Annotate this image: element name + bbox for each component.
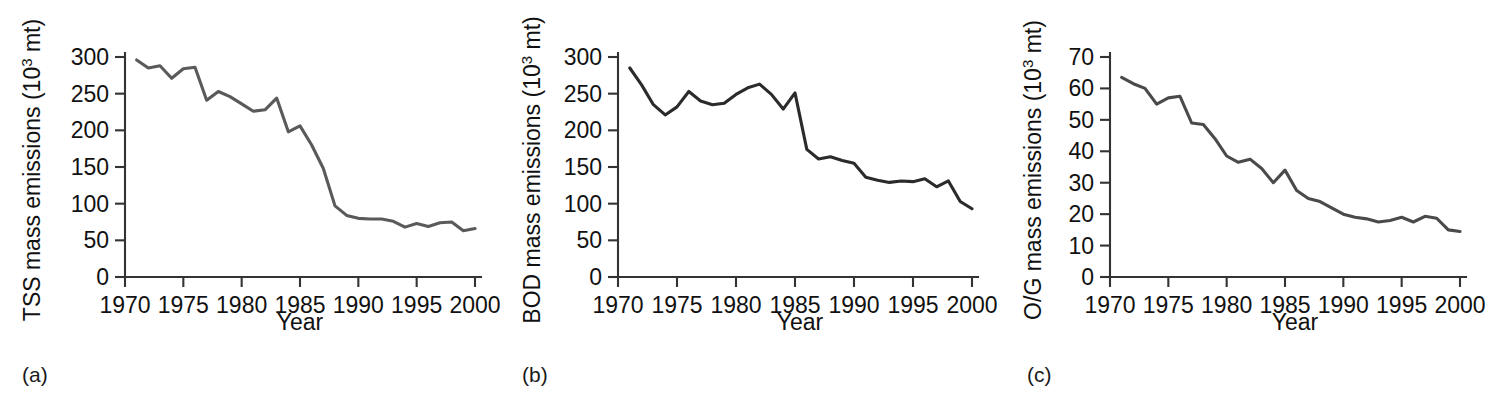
y-tick-label: 300 <box>71 44 109 70</box>
y-axis-a: 050100150200250300 <box>71 44 125 290</box>
y-tick-label: 70 <box>1068 44 1094 70</box>
panel-label-b: (b) <box>522 363 548 387</box>
y-tick-label: 150 <box>71 154 109 180</box>
x-tick-label: 2000 <box>1434 292 1485 318</box>
y-tick-label: 30 <box>1068 170 1094 196</box>
y-tick-label: 50 <box>83 227 109 253</box>
y-tick-label: 150 <box>564 154 602 180</box>
x-tick-label: 1975 <box>1143 292 1194 318</box>
x-tick-label: 1990 <box>333 292 384 318</box>
panel-label-a: (a) <box>22 363 48 387</box>
y-tick-label: 50 <box>576 227 602 253</box>
x-tick-label: 1990 <box>828 292 879 318</box>
x-tick-label: 1970 <box>592 292 643 318</box>
y-tick-label: 100 <box>71 191 109 217</box>
x-tick-label: 1995 <box>1376 292 1427 318</box>
y-tick-label: 0 <box>96 264 109 290</box>
y-tick-label: 10 <box>1068 233 1094 259</box>
y-axis-title-b: BOD mass emissions (103 mt) <box>518 16 545 323</box>
y-tick-label: 20 <box>1068 201 1094 227</box>
panel-b-bod: BOD mass emissions (103 mt) 050100150200… <box>500 0 1005 405</box>
x-tick-label: 1980 <box>216 292 267 318</box>
chart-c-svg: O/G mass emissions (103 mt) 010203040506… <box>1005 0 1493 405</box>
panel-a-tss: TSS mass emissions (103 mt) 050100150200… <box>0 0 500 405</box>
y-tick-label: 40 <box>1068 138 1094 164</box>
y-tick-label: 250 <box>564 81 602 107</box>
y-tick-label: 300 <box>564 44 602 70</box>
x-tick-label: 1995 <box>887 292 938 318</box>
y-tick-label: 50 <box>1068 107 1094 133</box>
y-tick-label: 250 <box>71 81 109 107</box>
y-tick-label: 200 <box>71 117 109 143</box>
chart-b-svg: BOD mass emissions (103 mt) 050100150200… <box>500 0 1005 405</box>
x-tick-label: 1970 <box>1084 292 1135 318</box>
series-line-bod <box>630 68 972 209</box>
x-tick-label: 1975 <box>158 292 209 318</box>
y-axis-title-a: TSS mass emissions (103 mt) <box>18 19 45 321</box>
x-tick-label: 2000 <box>449 292 500 318</box>
y-axis-b: 050100150200250300 <box>564 44 618 290</box>
x-tick-label: 1980 <box>710 292 761 318</box>
y-tick-label: 100 <box>564 191 602 217</box>
x-tick-label: 1995 <box>391 292 442 318</box>
chart-a-svg: TSS mass emissions (103 mt) 050100150200… <box>0 0 500 405</box>
series-line-tss <box>137 60 475 231</box>
y-tick-label: 0 <box>589 264 602 290</box>
panel-label-c: (c) <box>1027 363 1052 387</box>
series-line-og <box>1122 77 1460 231</box>
x-tick-label: 1990 <box>1318 292 1369 318</box>
x-axis-title-a: Year <box>277 309 324 335</box>
figure-three-panel-emissions: TSS mass emissions (103 mt) 050100150200… <box>0 0 1493 405</box>
x-axis-title-c: Year <box>1272 309 1319 335</box>
y-tick-label: 60 <box>1068 75 1094 101</box>
y-tick-label: 0 <box>1081 264 1094 290</box>
x-axis-title-b: Year <box>777 309 824 335</box>
x-tick-label: 1975 <box>651 292 702 318</box>
x-tick-label: 1980 <box>1201 292 1252 318</box>
x-tick-label: 1970 <box>99 292 150 318</box>
panel-c-og: O/G mass emissions (103 mt) 010203040506… <box>1005 0 1493 405</box>
y-axis-c: 010203040506070 <box>1068 44 1110 290</box>
y-axis-title-c: O/G mass emissions (103 mt) <box>1019 20 1046 320</box>
x-tick-label: 2000 <box>946 292 997 318</box>
y-tick-label: 200 <box>564 117 602 143</box>
